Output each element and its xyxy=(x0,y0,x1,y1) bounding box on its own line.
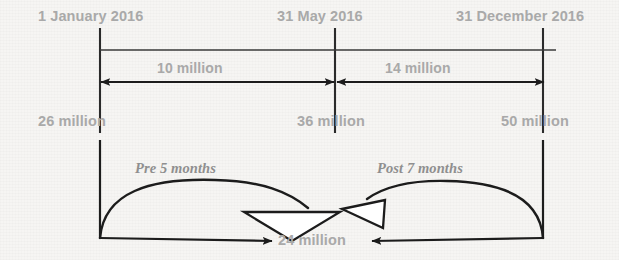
value-label-start: 26 million xyxy=(38,113,106,129)
diagram-svg xyxy=(0,0,619,260)
baseline-arrow-left xyxy=(100,238,272,241)
measure-label-post: 14 million xyxy=(385,60,451,76)
post-flow-triangle-icon xyxy=(342,200,385,228)
bottom-result-label: 24 million xyxy=(278,232,346,248)
arc-label-post: Post 7 months xyxy=(377,160,463,177)
value-label-end: 50 million xyxy=(501,113,569,129)
date-label-middle: 31 May 2016 xyxy=(277,8,363,24)
arc-label-pre: Pre 5 months xyxy=(135,160,216,177)
diagram-canvas: 1 January 2016 31 May 2016 31 December 2… xyxy=(0,0,619,260)
baseline-arrow-right xyxy=(372,238,543,241)
measure-label-pre: 10 million xyxy=(157,60,223,76)
value-label-middle: 36 million xyxy=(297,113,365,129)
date-label-start: 1 January 2016 xyxy=(38,8,143,24)
post-arc-path xyxy=(367,181,543,238)
date-label-end: 31 December 2016 xyxy=(456,8,584,24)
